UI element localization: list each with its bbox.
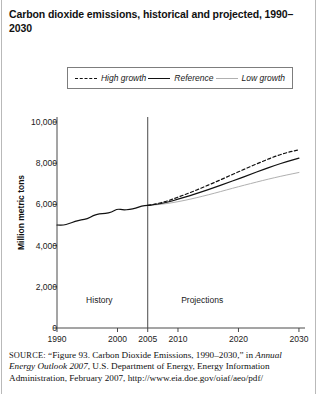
light-line-icon [216,75,238,82]
region-label: History [86,295,112,305]
legend-label-low-growth: Low growth [242,73,285,83]
legend: High growth Reference Low growth [68,68,292,88]
region-label: Projections [181,295,223,305]
legend-label-high-growth: High growth [101,73,146,83]
y-axis-tick-labels: 02,0004,0006,0008,00010,000 [0,95,57,345]
solid-line-icon [148,75,170,82]
y-tick-label: 6,000 [36,199,57,209]
x-tick-label: 2020 [229,334,248,344]
series-line-reference [57,158,299,225]
legend-box: High growth Reference Low growth [67,67,293,89]
x-tick-label: 2030 [289,334,308,344]
legend-item-low-growth: Low growth [216,73,285,83]
x-tick-label: 1990 [48,334,67,344]
figure-container: Carbon dioxide emissions, historical and… [0,0,318,394]
y-tick-label: 10,000 [31,117,57,127]
y-tick-label: 8,000 [36,158,57,168]
y-tick-label: 2,000 [36,282,57,292]
source-text-1: “Figure 93. Carbon Dioxide Emissions, 19… [48,350,255,360]
legend-item-high-growth: High growth [75,73,146,83]
source-note: SOURCE: “Figure 93. Carbon Dioxide Emiss… [9,350,309,384]
legend-item-reference: Reference [148,73,213,83]
dashed-line-icon [75,75,97,82]
x-tick-label: 2010 [169,334,188,344]
y-tick-label: 0 [52,323,57,333]
x-tick-label: 2000 [108,334,127,344]
y-tick-label: 4,000 [36,241,57,251]
legend-label-reference: Reference [174,73,213,83]
figure-title: Carbon dioxide emissions, historical and… [9,8,299,35]
plot-area: Million metric tons 02,0004,0006,0008,00… [0,95,318,345]
x-tick-label: 2005 [138,334,157,344]
source-prefix: SOURCE: [9,351,46,360]
